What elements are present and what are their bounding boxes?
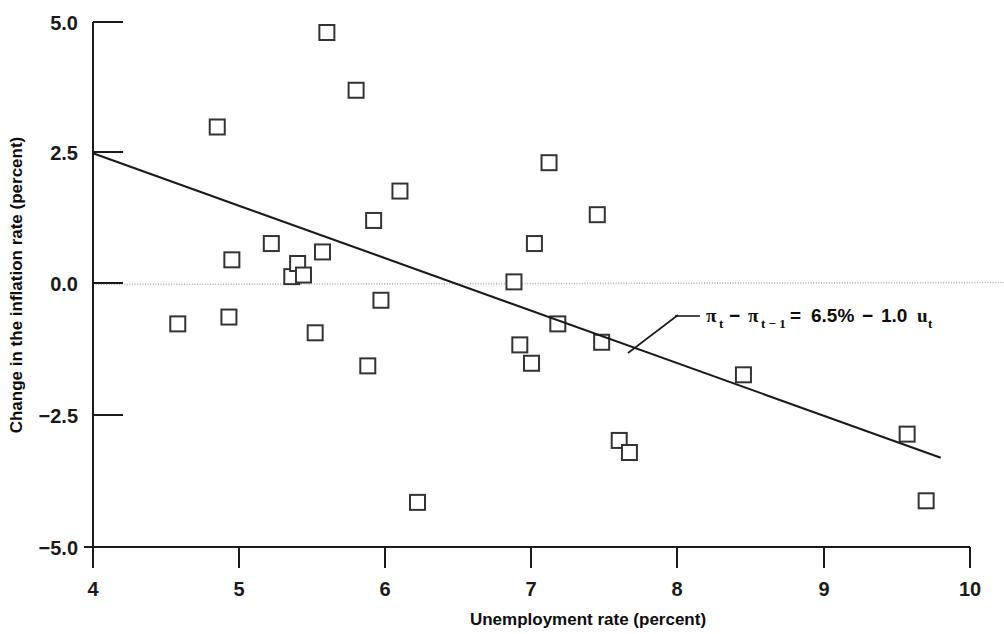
equation-value-2: 1.0	[881, 305, 907, 326]
data-point-marker	[210, 120, 225, 135]
x-tick-label-2: 6	[379, 578, 390, 600]
data-point-marker	[919, 493, 934, 508]
equation-minus-2: −	[862, 305, 873, 326]
annotation-leader-line	[628, 315, 678, 353]
x-tick-label-4: 8	[671, 578, 682, 600]
data-point-marker	[221, 310, 236, 325]
equation-subscript-3: t	[928, 316, 933, 331]
x-axis-ticks	[93, 547, 970, 568]
data-point-marker	[590, 207, 605, 222]
data-point-marker	[296, 268, 311, 283]
data-point-marker	[622, 445, 637, 460]
y-tick-label-2: 0.0	[50, 273, 78, 295]
chart-svg: 5.0 2.5 0.0 −2.5 −5.0 4 5 6 7 8 9 10 Une…	[0, 0, 1004, 634]
data-point-marker	[224, 252, 239, 267]
data-point-marker	[392, 184, 407, 199]
y-axis-title: Change in the inflation rate (percent)	[7, 137, 26, 434]
equation-value-1: 6.5%	[811, 305, 854, 326]
data-point-marker	[736, 367, 751, 382]
data-point-marker	[900, 427, 915, 442]
equation-pi-2: π	[748, 305, 759, 326]
equation-equals: =	[790, 305, 801, 326]
data-point-group	[170, 25, 933, 510]
x-tick-label-1: 5	[233, 578, 244, 600]
data-point-marker	[366, 213, 381, 228]
data-point-marker	[524, 356, 539, 371]
data-point-marker	[315, 244, 330, 259]
zero-reference-line	[93, 283, 1004, 285]
data-point-marker	[527, 236, 542, 251]
y-axis-ticks	[93, 22, 123, 547]
equation-subscript-1: t	[719, 316, 724, 331]
data-point-marker	[308, 325, 323, 340]
data-point-marker	[264, 236, 279, 251]
x-axis-title: Unemployment rate (percent)	[470, 610, 706, 629]
data-point-marker	[319, 25, 334, 40]
equation-subscript-2: t − 1	[761, 316, 786, 331]
equation-pi-1: π	[706, 305, 717, 326]
data-point-marker	[360, 358, 375, 373]
x-tick-label-5: 9	[818, 578, 829, 600]
y-tick-label-3: −2.5	[39, 405, 78, 427]
data-point-marker	[512, 337, 527, 352]
regression-equation-annotation: π t − π t − 1 = 6.5% − 1.0 u t	[706, 305, 933, 331]
data-point-marker	[373, 293, 388, 308]
x-tick-label-3: 7	[525, 578, 536, 600]
equation-minus-1: −	[729, 305, 740, 326]
x-tick-label-0: 4	[87, 578, 99, 600]
phillips-curve-scatter-chart: 5.0 2.5 0.0 −2.5 −5.0 4 5 6 7 8 9 10 Une…	[0, 0, 1004, 634]
y-tick-label-1: 2.5	[50, 142, 78, 164]
y-tick-label-0: 5.0	[50, 12, 78, 34]
x-tick-label-6: 10	[959, 578, 981, 600]
data-point-marker	[349, 83, 364, 98]
data-point-marker	[506, 274, 521, 289]
y-tick-label-4: −5.0	[39, 537, 78, 559]
data-point-marker	[410, 495, 425, 510]
equation-u-variable: u	[917, 305, 928, 326]
data-point-marker	[542, 155, 557, 170]
data-point-marker	[170, 316, 185, 331]
